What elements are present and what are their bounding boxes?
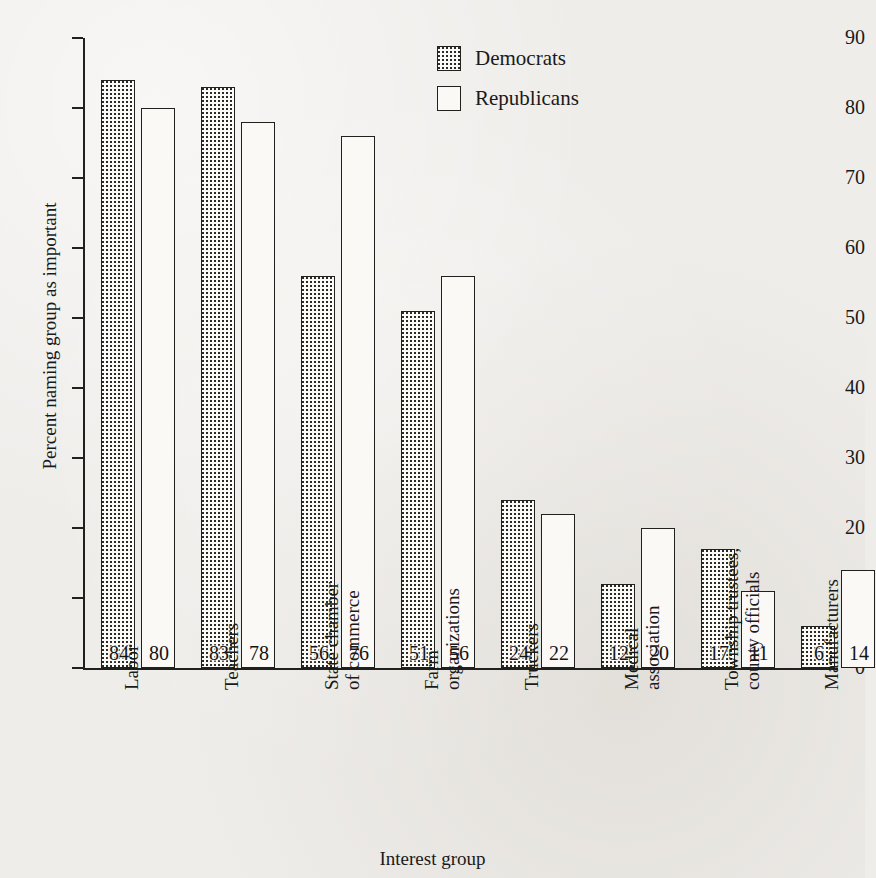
x-category-label-4: Truckers: [521, 480, 542, 690]
bar-value-label: 78: [242, 643, 276, 663]
y-tick-70: [72, 177, 83, 179]
x-category-label-0: Labor: [121, 480, 142, 690]
y-tick-10: [72, 597, 83, 599]
legend: Democrats Republicans: [437, 38, 579, 118]
x-category-label-2: State chamber of commerce: [321, 480, 363, 690]
y-tick-label-50: 50: [801, 307, 865, 327]
y-tick-label-30: 30: [801, 447, 865, 467]
bar-value-label: 14: [842, 643, 876, 663]
legend-item-republicans: Republicans: [437, 78, 579, 118]
x-category-label-6: Township trustees, county officials: [721, 480, 763, 690]
y-tick-20: [72, 527, 83, 529]
y-tick-50: [72, 317, 83, 319]
x-category-label-5: Medical association: [621, 480, 663, 690]
y-tick-label-90: 90: [801, 27, 865, 47]
bar-republicans-0: 80: [141, 108, 175, 668]
legend-swatch-republicans: [437, 86, 461, 111]
legend-swatch-democrats: [437, 46, 461, 71]
y-tick-0: [72, 667, 83, 669]
y-tick-label-80: 80: [801, 97, 865, 117]
x-category-label-3: Farm organizations: [421, 480, 463, 690]
bar-republicans-7: 14: [841, 570, 875, 668]
y-tick-label-60: 60: [801, 237, 865, 257]
y-tick-label-70: 70: [801, 167, 865, 187]
y-tick-40: [72, 387, 83, 389]
legend-label-republicans: Republicans: [475, 88, 579, 109]
y-tick-label-40: 40: [801, 377, 865, 397]
y-axis-line: [83, 38, 85, 670]
bar-republicans-4: 22: [541, 514, 575, 668]
y-tick-90: [72, 37, 83, 39]
x-category-label-1: Teachers: [221, 480, 242, 690]
x-axis-title: Interest group: [0, 848, 865, 870]
bar-republicans-1: 78: [241, 122, 275, 668]
y-tick-80: [72, 107, 83, 109]
y-tick-30: [72, 457, 83, 459]
y-axis-title: Percent naming group as important: [39, 171, 61, 501]
legend-item-democrats: Democrats: [437, 38, 579, 78]
x-category-label-7: Manufacturers: [821, 480, 842, 690]
y-tick-60: [72, 247, 83, 249]
bar-value-label: 80: [142, 643, 176, 663]
legend-label-democrats: Democrats: [475, 48, 566, 69]
bar-value-label: 22: [542, 643, 576, 663]
